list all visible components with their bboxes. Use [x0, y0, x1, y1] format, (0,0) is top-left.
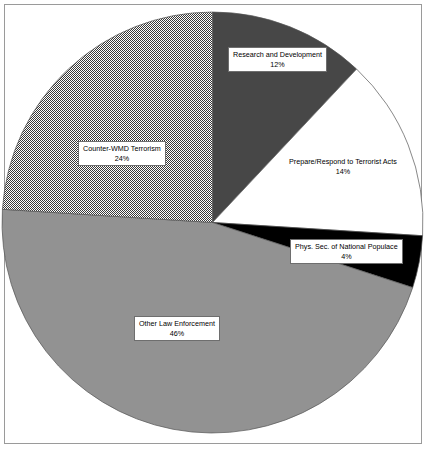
pie-label-value: 12% [233, 60, 322, 70]
pie-label-research-and-development: Research and Development 12% [228, 47, 327, 72]
pie-label-phys-sec-of-national-populace: Phys. Sec. of National Populace 4% [290, 239, 403, 264]
pie-label-name: Counter-WMD Terrorism [83, 144, 161, 154]
pie-label-counter-wmd-terrorism: Counter-WMD Terrorism 24% [78, 141, 166, 166]
pie-label-name: Prepare/Respond to Terrorist Acts [289, 157, 397, 167]
pie-label-other-law-enforcement: Other Law Enforcement 46% [134, 316, 220, 341]
pie-label-value: 4% [295, 252, 398, 262]
pie-label-value: 24% [83, 154, 161, 164]
pie-slice-counter-wmd-terrorism[interactable] [2, 12, 212, 223]
pie-label-value: 14% [289, 167, 397, 177]
pie-label-name: Research and Development [233, 50, 322, 60]
pie-chart-canvas [0, 0, 427, 449]
pie-slices-group [2, 12, 423, 433]
pie-chart-figure: Research and Development 12% Prepare/Res… [0, 0, 427, 449]
pie-label-name: Other Law Enforcement [139, 319, 215, 329]
pie-label-prepare-respond-to-terrorist-acts: Prepare/Respond to Terrorist Acts 14% [285, 155, 401, 178]
pie-label-name: Phys. Sec. of National Populace [295, 242, 398, 252]
pie-label-value: 46% [139, 329, 215, 339]
